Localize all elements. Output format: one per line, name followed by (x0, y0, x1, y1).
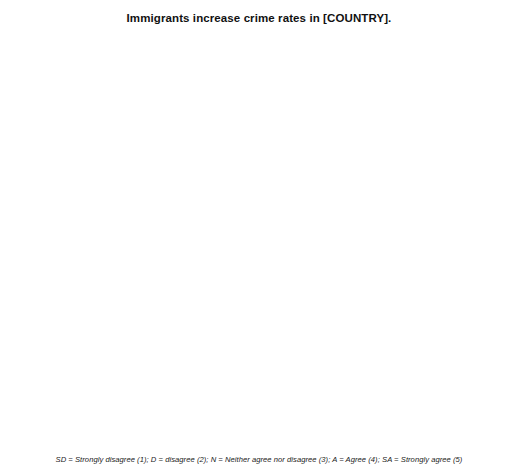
panel-grid (0, 27, 518, 426)
figure-root: Immigrants increase crime rates in [COUN… (0, 0, 518, 470)
figure-title: Immigrants increase crime rates in [COUN… (0, 0, 518, 26)
figure-footnote: SD = Strongly disagree (1); D = disagree… (0, 455, 518, 464)
